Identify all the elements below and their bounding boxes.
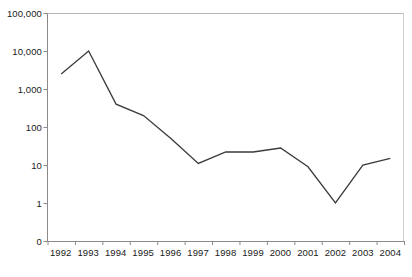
- chart-container: 100,000 10,000 1,000 100 10 1 0 1992 199…: [0, 0, 412, 277]
- x-tick-label: 1996: [157, 247, 184, 267]
- x-tick-label: 1994: [102, 247, 129, 267]
- y-tick-mark-group: [44, 14, 48, 242]
- x-tick-label: 1993: [74, 247, 101, 267]
- x-tick-label: 2003: [349, 247, 376, 267]
- x-tick-label: 1992: [47, 247, 74, 267]
- plot-area: [0, 0, 412, 277]
- x-tick-label: 1995: [129, 247, 156, 267]
- x-tick-label: 2000: [267, 247, 294, 267]
- x-tick-label: 1997: [184, 247, 211, 267]
- data-series-line: [61, 51, 390, 203]
- x-tick-label: 2001: [294, 247, 321, 267]
- x-tick-label: 2002: [322, 247, 349, 267]
- axis-group: [48, 13, 405, 242]
- x-tick-label: 1999: [239, 247, 266, 267]
- x-tick-label: 2004: [377, 247, 404, 267]
- x-axis-label-group: 1992 1993 1994 1995 1996 1997 1998 1999 …: [47, 247, 404, 267]
- x-tick-label: 1998: [212, 247, 239, 267]
